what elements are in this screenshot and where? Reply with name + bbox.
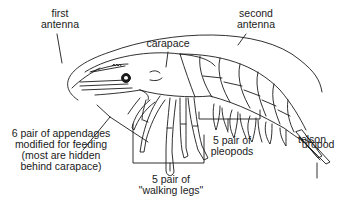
first-antenna-leader [57, 34, 62, 63]
walking-legs-label: 5 pair of "walking legs" [138, 174, 204, 196]
uropod-label: uropod [284, 139, 339, 150]
second-antenna-leader [238, 34, 246, 45]
walking-leg [166, 98, 176, 176]
feeding-appendages-label: 6 pair of appendages modified for feedin… [2, 128, 120, 172]
pleopod [265, 122, 272, 144]
carapace-leader [166, 52, 168, 67]
walking-leg [132, 100, 155, 130]
pleopods-label: 5 pair of pleopods [207, 135, 257, 157]
walking-leg [188, 98, 208, 160]
walking-leg [180, 98, 188, 158]
second-antenna-label: second antenna [232, 8, 280, 30]
carapace-outline [85, 53, 215, 72]
pleopod [213, 104, 220, 130]
first-antenna-label: first antenna [40, 8, 80, 30]
carapace-label: carapace [138, 38, 198, 49]
